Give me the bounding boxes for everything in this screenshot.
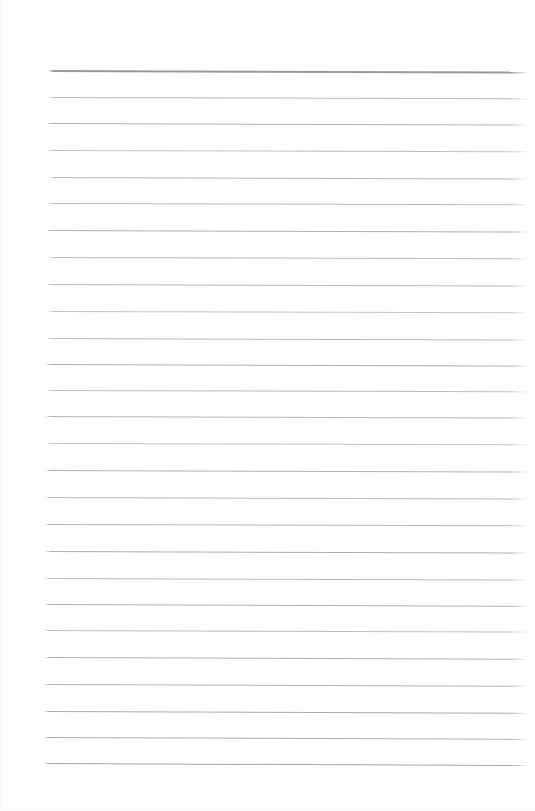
ruled-line: [46, 284, 529, 287]
ruled-line-stroke: [45, 551, 529, 554]
ruled-line-stroke: [46, 123, 529, 126]
ruled-line: [44, 524, 529, 526]
ruled-line-stroke: [46, 230, 529, 233]
ruled-line-stroke: [43, 711, 529, 714]
ruled-line: [43, 737, 529, 740]
ruled-line: [48, 70, 529, 73]
ruled-line-stroke: [44, 578, 529, 580]
ruled-line-stroke: [43, 737, 529, 740]
ruled-line-stroke: [46, 284, 529, 287]
ruled-line: [45, 470, 529, 473]
ruled-line-stroke: [46, 338, 529, 341]
ruled-line-stroke: [45, 416, 529, 419]
ruled-line: [44, 578, 529, 580]
ruled-line: [46, 443, 529, 445]
ruled-line: [47, 150, 529, 152]
ruled-line-stroke: [44, 657, 529, 660]
ruled-line-stroke: [48, 177, 529, 180]
ruled-line: [43, 630, 529, 633]
ruled-line-stroke: [44, 524, 529, 526]
ruled-line-stroke: [43, 763, 529, 766]
ruled-line: [47, 311, 529, 313]
ruled-line: [46, 123, 529, 126]
ruled-line-stroke: [47, 97, 529, 99]
ruled-line-stroke: [45, 364, 529, 367]
ruled-line: [47, 257, 529, 259]
ruled-line: [43, 711, 529, 714]
ruled-line: [45, 364, 529, 367]
ruled-line-stroke: [48, 70, 529, 73]
ruled-line: [47, 203, 529, 205]
ruled-line: [48, 177, 529, 180]
ruled-line-stroke: [44, 604, 529, 607]
ruled-line-stroke: [46, 443, 529, 445]
ruled-line-stroke: [45, 497, 529, 500]
ruled-line-stroke: [47, 203, 529, 205]
ruled-line-stroke: [47, 311, 529, 313]
ruled-line: [45, 551, 529, 554]
ruled-line: [45, 416, 529, 419]
ruled-line-stroke: [47, 257, 529, 259]
scanned-page: [0, 0, 535, 811]
ruled-line: [47, 97, 529, 99]
ruled-line: [44, 657, 529, 660]
ruled-line: [45, 497, 529, 500]
ruled-line-stroke: [45, 470, 529, 473]
ruled-line-stroke: [43, 684, 529, 687]
ruled-line: [43, 684, 529, 687]
ruled-line: [46, 338, 529, 341]
ruled-line-stroke: [46, 390, 529, 392]
ruled-line: [46, 390, 529, 392]
ruled-line-stroke: [43, 630, 529, 633]
ruled-line: [43, 763, 529, 766]
ruled-line: [44, 604, 529, 607]
ruled-line-stroke: [47, 150, 529, 152]
ruled-lines-layer: [0, 0, 535, 811]
ruled-line: [46, 230, 529, 233]
